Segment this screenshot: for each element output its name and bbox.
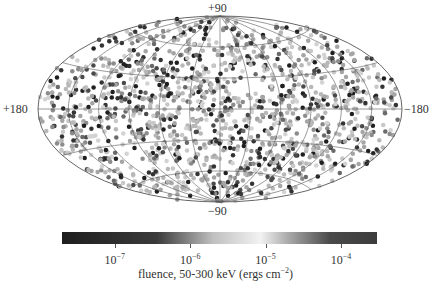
colorbar-label: fluence, 50-300 keV (ergs cm−2) (0, 266, 431, 282)
colorbar-tick-mark (115, 244, 116, 248)
coordinate-grid (38, 16, 402, 202)
fluence-colorbar (62, 232, 377, 244)
latitude-label-bottom: −90 (208, 204, 227, 219)
colorbar-tick-mark (341, 244, 342, 248)
colorbar-tick-mark (190, 244, 191, 248)
longitude-label-right: −180 (404, 102, 429, 117)
sky-map-plot (0, 0, 431, 230)
longitude-label-left: +180 (3, 102, 28, 117)
latitude-label-top: +90 (208, 1, 227, 16)
colorbar-tick-mark (266, 244, 267, 248)
